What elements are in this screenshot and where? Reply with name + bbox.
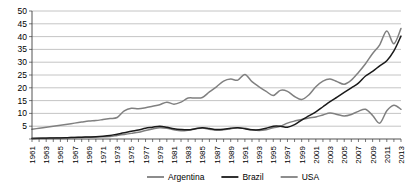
x-axis-tick-label: 1977 <box>142 145 151 163</box>
y-axis-tick-label: 50 <box>18 6 28 16</box>
y-axis-tick-label: 10 <box>18 108 28 118</box>
x-axis-tick-label: 1981 <box>170 145 179 163</box>
x-axis-tick-label: 1979 <box>156 145 165 163</box>
y-axis-tick-label: 20 <box>18 83 28 93</box>
x-axis-tick-label: 1967 <box>71 145 80 163</box>
x-axis-tick-label: 1985 <box>198 145 207 163</box>
x-axis-tick-label: 1975 <box>127 145 136 163</box>
x-axis-tick-label: 2001 <box>312 145 321 163</box>
y-axis-tick-label: 25 <box>18 70 28 80</box>
x-axis-tick-label: 2005 <box>340 145 349 163</box>
x-axis-tick-label: 2011 <box>383 145 392 163</box>
y-axis-tick-label: 15 <box>18 96 28 106</box>
x-axis-tick-label: 1997 <box>283 145 292 163</box>
x-axis-tick-label: 1993 <box>255 145 264 163</box>
line-chart: 5101520253035404550 19611963196519671969… <box>0 0 412 192</box>
series-line-usa <box>32 28 401 129</box>
x-axis-tick-label: 2007 <box>354 145 363 163</box>
legend-label-brazil: Brazil <box>242 172 263 182</box>
x-axis-labels: 1961196319651967196919711973197519771979… <box>28 145 406 163</box>
gridlines <box>32 11 401 126</box>
x-axis-tick-label: 1999 <box>298 145 307 163</box>
y-axis-tick-label: 30 <box>18 57 28 67</box>
y-axis-tick-label: 35 <box>18 44 28 54</box>
x-axis-tick-label: 1987 <box>213 145 222 163</box>
y-axis-tick-label: 5 <box>22 121 27 131</box>
x-axis-tick-label: 1991 <box>241 145 250 163</box>
series-lines <box>32 28 401 138</box>
legend-label-usa: USA <box>302 172 320 182</box>
x-axis-tick-label: 1989 <box>227 145 236 163</box>
x-axis-tick-label: 2013 <box>397 145 406 163</box>
x-axis-tick-label: 1971 <box>99 145 108 163</box>
y-axis-tick-label: 40 <box>18 32 28 42</box>
legend-label-argentina: Argentina <box>168 172 205 182</box>
y-axis-tick-label: 45 <box>18 19 28 29</box>
x-axis-tick-label: 1961 <box>28 145 37 163</box>
x-axis-tick-label: 1969 <box>85 145 94 163</box>
chart-legend: ArgentinaBrazilUSA <box>147 172 319 182</box>
x-axis-tick-label: 1963 <box>42 145 51 163</box>
x-axis-tick-label: 1995 <box>269 145 278 163</box>
x-axis-tick-label: 1983 <box>184 145 193 163</box>
x-axis-tick-label: 1973 <box>113 145 122 163</box>
y-axis-labels: 5101520253035404550 <box>18 6 28 131</box>
chart-canvas: 5101520253035404550 19611963196519671969… <box>0 0 412 192</box>
x-axis-tick-label: 1965 <box>56 145 65 163</box>
x-axis-tick-label: 2003 <box>326 145 335 163</box>
x-axis-tick-label: 2009 <box>369 145 378 163</box>
